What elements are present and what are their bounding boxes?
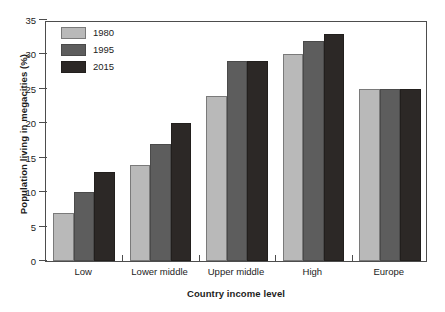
legend-item: 2015 [61, 60, 114, 73]
x-axis-group-label: Low [45, 266, 121, 277]
y-axis-tick-label: 25 [25, 83, 36, 94]
y-axis-tick: 25 [39, 88, 47, 89]
y-axis-tick: 0 [39, 260, 47, 261]
chart-figure: Population living in megacities (%) Coun… [0, 0, 445, 312]
x-axis-title: Country income level [44, 288, 428, 299]
y-axis-tick: 5 [39, 226, 47, 227]
x-axis-group-label: Upper middle [198, 266, 274, 277]
bar [227, 61, 248, 261]
bar [206, 96, 227, 261]
y-axis-tick: 35 [39, 19, 47, 20]
bar [359, 89, 380, 261]
bar [150, 144, 171, 261]
legend-label: 2015 [93, 61, 114, 72]
legend-swatch-icon [61, 61, 86, 73]
y-axis-tick: 10 [39, 191, 47, 192]
bar [74, 192, 95, 261]
x-axis-tick [352, 255, 353, 261]
y-axis-tick-label: 0 [31, 256, 36, 267]
bar [171, 123, 192, 261]
x-axis-tick [199, 255, 200, 261]
legend-item: 1995 [61, 43, 114, 56]
legend-label: 1995 [93, 44, 114, 55]
bar [303, 41, 324, 261]
y-axis-tick-label: 30 [25, 49, 36, 60]
y-axis-tick: 30 [39, 53, 47, 54]
y-axis-tick-label: 5 [31, 221, 36, 232]
x-axis-tick [275, 255, 276, 261]
bar [380, 89, 401, 261]
legend-item: 1980 [61, 26, 114, 39]
x-axis-tick [122, 255, 123, 261]
y-axis-tick: 20 [39, 122, 47, 123]
bar [247, 61, 268, 261]
y-axis-tick-label: 15 [25, 152, 36, 163]
legend-swatch-icon [61, 44, 86, 56]
x-axis-group-label: Lower middle [121, 266, 197, 277]
bar [94, 172, 115, 262]
bar [324, 34, 345, 261]
chart-legend: 198019952015 [61, 26, 114, 73]
y-axis-title: Population living in megacities (%) [14, 3, 32, 265]
legend-label: 1980 [93, 27, 114, 38]
x-axis-group-label: High [274, 266, 350, 277]
x-axis-group-label: Europe [351, 266, 427, 277]
bar [400, 89, 421, 261]
y-axis-tick-label: 10 [25, 187, 36, 198]
y-axis-tick-label: 35 [25, 15, 36, 26]
bar [53, 213, 74, 261]
y-axis-tick-label: 20 [25, 118, 36, 129]
y-axis-tick: 15 [39, 157, 47, 158]
legend-swatch-icon [61, 27, 86, 39]
bar [130, 165, 151, 261]
bar [283, 54, 304, 261]
